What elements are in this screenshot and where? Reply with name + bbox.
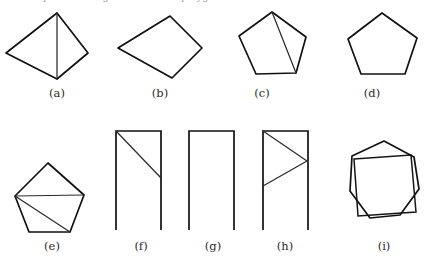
figure-g (189, 131, 234, 230)
figure-label-d: (d) (364, 86, 380, 100)
figure-label-c: (c) (254, 86, 269, 100)
figure-d-outline (348, 13, 417, 74)
figure-f-open-path (116, 131, 161, 230)
figure-f-chord-1 (116, 131, 161, 178)
figure-b (118, 16, 202, 78)
figure-label-i: (i) (378, 239, 391, 253)
figure-label-h: (h) (277, 239, 293, 253)
figure-e (15, 163, 84, 232)
figure-plate: and shapes in the figure below are polyg… (0, 0, 431, 262)
figure-label-g: (g) (205, 239, 221, 253)
figure-d (348, 13, 417, 74)
figure-b-outline (118, 16, 202, 78)
figure-c-outline (239, 12, 306, 74)
figure-h-chord-1 (263, 131, 307, 186)
figure-label-e: (e) (44, 239, 60, 253)
figure-a (6, 13, 88, 79)
figure-c (239, 12, 306, 74)
figure-h (263, 131, 308, 230)
figure-label-f: (f) (134, 239, 147, 253)
figure-f (116, 131, 161, 230)
figure-g-open-path (189, 131, 234, 230)
figure-label-b: (b) (152, 86, 168, 100)
figure-a-outline (6, 13, 88, 79)
figure-e-outline (15, 163, 84, 232)
figure-label-a: (a) (49, 86, 65, 100)
geometric-figures-canvas (0, 0, 431, 262)
figure-i (350, 141, 419, 218)
figure-i-outline (350, 141, 419, 218)
